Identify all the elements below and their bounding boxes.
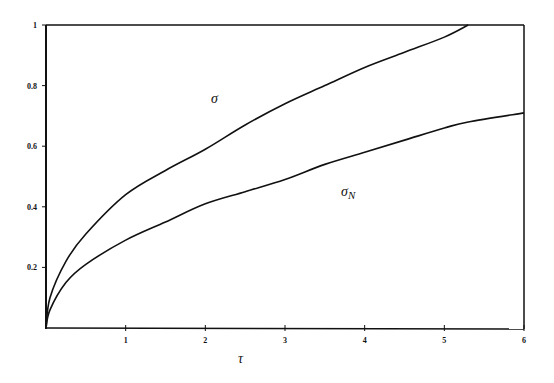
x-tick-label: 1: [124, 336, 128, 345]
plot-frame: [46, 25, 524, 329]
x-tick-label: 2: [203, 336, 207, 345]
y-tick-label: 0.2: [27, 263, 37, 272]
sigma-n-curve: [46, 113, 524, 328]
y-tick-label: 0.4: [27, 203, 37, 212]
x-tick-label: 6: [522, 336, 526, 345]
x-tick-label: 4: [363, 336, 367, 345]
series-labels: σ σN: [211, 91, 356, 201]
line-chart: 123456 0.20.40.60.81 σ σN τ: [0, 0, 554, 383]
x-tick-label: 5: [442, 336, 446, 345]
y-tick-label: 0.8: [27, 82, 37, 91]
subscript-n: N: [347, 189, 356, 201]
curves: [46, 25, 524, 328]
y-ticks: 0.20.40.60.81: [27, 21, 46, 272]
x-tick-label: 3: [283, 336, 287, 345]
x-axis-title: τ: [238, 351, 244, 366]
sigma-curve: [46, 25, 468, 328]
y-tick-label: 1: [33, 21, 37, 30]
y-tick-label: 0.6: [27, 142, 37, 151]
sigma-label: σ: [211, 91, 219, 106]
sigma-n-label: σN: [341, 184, 356, 201]
